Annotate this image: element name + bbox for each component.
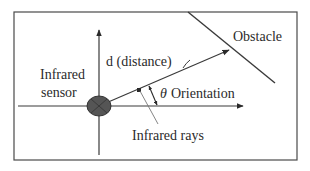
infrared-sensor-icon	[87, 96, 111, 116]
obstacle-label: Obstacle	[233, 29, 282, 44]
sensor-label-line1: Infrared	[40, 67, 85, 82]
orientation-label: Orientation	[171, 86, 235, 101]
obstacle-line	[188, 12, 275, 83]
orientation-angle-arrow	[149, 86, 157, 105]
sensor-diagram: Obstacle d (distance) Infrared sensor θ …	[0, 0, 310, 171]
theta-symbol: θ	[160, 86, 167, 101]
rays-pointer-line	[140, 91, 158, 124]
infrared-rays-label: Infrared rays	[132, 128, 204, 143]
distance-label: d (distance)	[106, 54, 172, 70]
sensor-label-line2: sensor	[41, 85, 77, 100]
